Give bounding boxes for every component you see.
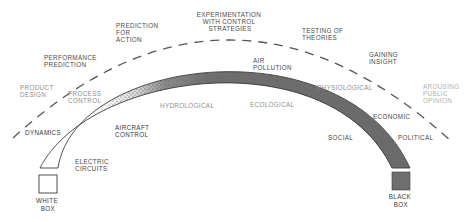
label-arousing-public-opinion: AROUSING PUBLIC OPINION: [423, 83, 462, 104]
label-hydrological: HYDROLOGICAL: [160, 102, 214, 109]
label-air-pollution: AIR POLLUTION: [253, 57, 292, 71]
label-economic: ECONOMIC: [373, 113, 411, 120]
label-political: POLITICAL: [398, 134, 433, 141]
white-box-label-1: WHITE: [36, 197, 58, 204]
label-prediction-for-action: PREDICTION FOR ACTION: [116, 22, 160, 43]
black-box-label-1: BLACK: [389, 193, 412, 200]
label-process-control: PROCESS CONTROL: [68, 90, 103, 104]
label-dynamics: DYNAMICS: [25, 129, 61, 136]
svg-text:BLACK BOX: BLACK BOX: [389, 193, 414, 208]
black-box: [392, 172, 410, 190]
label-electric-circuits: ELECTRIC CIRCUITS: [75, 158, 111, 172]
label-testing-of-theories: TESTING OF THEORIES: [302, 27, 345, 41]
black-box-label-2: BOX: [394, 201, 409, 208]
label-gaining-insight: GAINING INSIGHT: [369, 51, 400, 65]
white-box-label-2: BOX: [41, 205, 56, 212]
label-experimentation: EXPERIMENTATION WITH CONTROL STRATEGIES: [197, 11, 264, 32]
label-product-design: PRODUCT DESIGN: [20, 84, 56, 98]
label-performance-prediction: PERFORMANCE PREDICTION: [44, 54, 99, 68]
label-ecological: ECOLOGICAL: [250, 101, 295, 108]
white-to-black-box-diagram: WHITE BOX BLACK BOX PRODUCT DESIGN PERFO…: [0, 0, 472, 222]
label-aircraft-control: AIRCRAFT CONTROL: [115, 124, 151, 138]
label-physiological: PHYSIOLOGICAL: [317, 84, 373, 91]
svg-text:WHITE BOX: WHITE BOX: [36, 197, 60, 212]
label-social: SOCIAL: [328, 134, 353, 141]
white-box: [39, 175, 57, 193]
